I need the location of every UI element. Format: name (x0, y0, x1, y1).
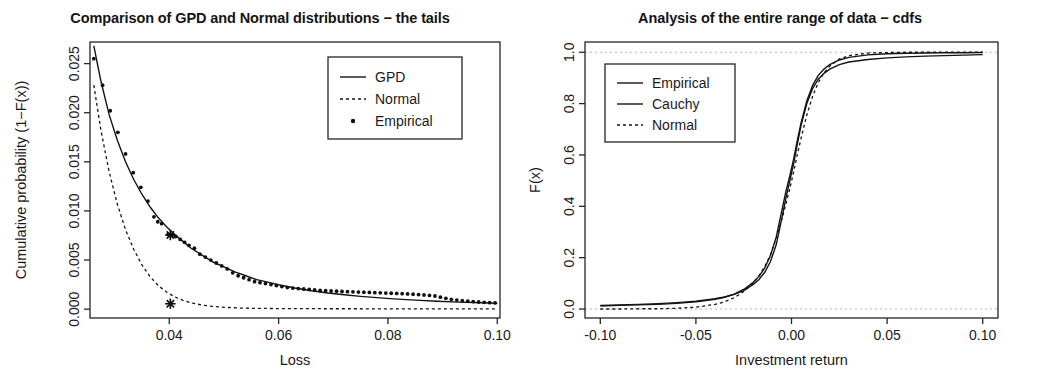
data-point (131, 171, 135, 175)
data-point (411, 292, 415, 296)
data-point (400, 292, 404, 296)
x-tick-label: 0.08 (374, 327, 401, 343)
data-point (253, 280, 257, 284)
x-tick-label: 0.05 (873, 327, 900, 343)
legend-item-label: Empirical (652, 75, 710, 91)
data-point (156, 220, 160, 224)
legend-key-point (351, 119, 355, 123)
data-point (373, 291, 377, 295)
data-point (302, 287, 306, 291)
data-point (460, 299, 464, 303)
data-point (455, 298, 459, 302)
figure-container: Comparison of GPD and Normal distributio… (0, 0, 1040, 382)
annotation-star-gpd (165, 230, 175, 240)
legend-item-label: Normal (652, 117, 697, 133)
data-point (307, 288, 311, 292)
x-axis-title: Loss (280, 352, 311, 368)
x-tick-label: 0.06 (265, 327, 292, 343)
data-point (258, 281, 262, 285)
y-tick-label: 0.8 (561, 94, 577, 114)
data-point (198, 252, 202, 256)
data-point (384, 291, 388, 295)
data-point (493, 301, 497, 305)
right-panel: Analysis of the entire range of data − c… (520, 0, 1040, 382)
data-point (231, 271, 235, 275)
data-point (214, 261, 218, 265)
data-point (318, 289, 322, 293)
data-point (264, 282, 268, 286)
left-panel: Comparison of GPD and Normal distributio… (0, 0, 520, 382)
data-point (488, 301, 492, 305)
data-point (313, 288, 317, 292)
data-point (291, 286, 295, 290)
data-point (449, 297, 453, 301)
y-tick-label: 0.015 (66, 144, 82, 179)
data-point (340, 290, 344, 294)
data-point (433, 294, 437, 298)
x-tick-label: 0.10 (484, 327, 511, 343)
data-point (236, 274, 240, 278)
y-tick-label: 0.6 (561, 145, 577, 165)
right-plot-svg: -0.10-0.050.000.050.100.00.20.40.60.81.0… (520, 0, 1040, 382)
x-tick-label: 0.10 (969, 327, 996, 343)
x-axis-title: Investment return (735, 352, 848, 368)
left-plot-svg: 0.040.060.080.100.0000.0050.0100.0150.02… (0, 0, 520, 382)
data-point (357, 290, 361, 294)
data-point (280, 285, 284, 289)
data-point (269, 283, 273, 287)
data-point (367, 291, 371, 295)
data-point (439, 295, 443, 299)
data-point (116, 130, 120, 134)
data-point (275, 284, 279, 288)
data-point (482, 300, 486, 304)
x-tick-label: 0.00 (778, 327, 805, 343)
data-point (152, 215, 156, 219)
data-point (193, 246, 197, 250)
data-point (296, 287, 300, 291)
y-tick-label: 0.025 (66, 46, 82, 81)
data-point (389, 291, 393, 295)
y-tick-label: 0.0 (561, 299, 577, 319)
data-point (146, 199, 150, 203)
data-point (139, 185, 143, 189)
data-point (101, 83, 105, 87)
y-axis-title: F(x) (527, 167, 543, 193)
x-tick-label: -0.10 (584, 327, 616, 343)
data-point (187, 243, 191, 247)
data-point (346, 290, 350, 294)
data-point (324, 289, 328, 293)
data-point (362, 290, 366, 294)
y-axis-title: Cumulative probability (1−F(x)) (13, 81, 29, 280)
y-tick-label: 1.0 (561, 42, 577, 62)
legend-item-label: Normal (375, 91, 420, 107)
data-point (178, 238, 182, 242)
data-point (203, 255, 207, 259)
y-tick-label: 0.2 (561, 248, 577, 268)
legend: GPDNormalEmpirical (328, 57, 462, 139)
data-point (329, 289, 333, 293)
data-point (466, 299, 470, 303)
data-point (428, 294, 432, 298)
data-point (378, 291, 382, 295)
data-point (242, 276, 246, 280)
data-point (225, 267, 229, 271)
data-point (285, 286, 289, 290)
y-tick-label: 0.000 (66, 291, 82, 326)
data-point (335, 289, 339, 293)
data-point (417, 293, 421, 297)
x-tick-label: -0.05 (680, 327, 712, 343)
legend-item-label: Cauchy (652, 96, 699, 112)
data-point (406, 292, 410, 296)
y-tick-label: 0.4 (561, 196, 577, 216)
data-point (422, 293, 426, 297)
data-point (108, 109, 112, 113)
y-tick-label: 0.005 (66, 242, 82, 277)
data-point (444, 296, 448, 300)
y-tick-label: 0.010 (66, 193, 82, 228)
data-point (395, 292, 399, 296)
legend-item-label: GPD (375, 69, 405, 85)
legend-item-label: Empirical (375, 113, 433, 129)
data-point (351, 290, 355, 294)
data-point (477, 300, 481, 304)
data-point (247, 278, 251, 282)
